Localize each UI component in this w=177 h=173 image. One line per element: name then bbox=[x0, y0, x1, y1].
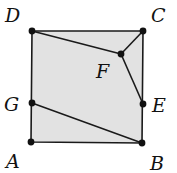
point-f-dot bbox=[118, 51, 125, 58]
geometry-diagram: ABCDEFG bbox=[0, 0, 177, 173]
point-b-dot bbox=[139, 140, 146, 147]
point-label-e: E bbox=[151, 94, 166, 116]
point-label-d: D bbox=[4, 4, 20, 26]
point-label-g: G bbox=[4, 93, 19, 115]
point-d-dot bbox=[29, 28, 36, 35]
point-label-a: A bbox=[4, 150, 20, 172]
point-g-dot bbox=[29, 100, 36, 107]
point-label-c: C bbox=[151, 4, 166, 26]
point-c-dot bbox=[140, 28, 147, 35]
point-label-f: F bbox=[95, 60, 110, 82]
point-a-dot bbox=[28, 139, 35, 146]
point-e-dot bbox=[140, 101, 147, 108]
point-label-b: B bbox=[149, 152, 164, 173]
